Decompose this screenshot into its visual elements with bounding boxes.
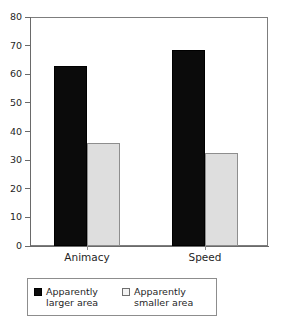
legend-label-line2: smaller area [134,297,193,308]
y-axis-tick-label: 50 [10,98,22,108]
y-axis-tick: 40 [25,131,30,132]
legend-entry-label: Apparently larger area [46,286,98,308]
bar-animacy-smaller-area [87,143,120,246]
legend-label-line1: Apparently [46,286,98,297]
y-axis-tick: 60 [25,74,30,75]
x-axis-category-label: Speed [189,252,222,263]
y-axis-tick-label: 80 [10,12,22,22]
y-axis-tick: 30 [25,160,30,161]
y-axis-tick: 20 [25,188,30,189]
x-axis-category-label: Animacy [64,252,109,263]
y-axis-tick-label: 40 [10,127,22,137]
y-axis-tick: 80 [25,17,30,18]
y-axis-tick: 70 [25,45,30,46]
y-axis-tick: 0 [25,246,30,247]
y-axis-tick: 50 [25,102,30,103]
legend-entry-label: Apparently smaller area [134,286,193,308]
y-axis-line [30,17,31,247]
y-axis-tick-label: 70 [10,41,22,51]
y-axis-tick: 10 [25,217,30,218]
x-axis-tick [205,246,206,250]
bar-speed-smaller-area [205,153,238,246]
y-axis-tick-label: 30 [10,155,22,165]
chart-legend: Apparently larger area Apparently smalle… [27,278,217,316]
y-axis-tick-label: 20 [10,184,22,194]
legend-label-line2: larger area [46,297,98,308]
bar-chart-figure: 01020304050607080 AnimacySpeed Apparentl… [0,0,285,326]
x-axis-tick [87,246,88,250]
bar-animacy-larger-area [54,66,87,246]
legend-label-line1: Apparently [134,286,186,297]
legend-entry-smaller-area: Apparently smaller area [122,286,210,308]
x-axis-line [30,246,269,247]
dark-square-swatch [34,288,42,296]
y-axis-tick-label: 0 [16,241,22,251]
light-square-swatch [122,288,130,296]
bar-speed-larger-area [172,50,205,246]
legend-entry-larger-area: Apparently larger area [34,286,122,308]
y-axis-tick-label: 10 [10,213,22,223]
y-axis-tick-label: 60 [10,70,22,80]
